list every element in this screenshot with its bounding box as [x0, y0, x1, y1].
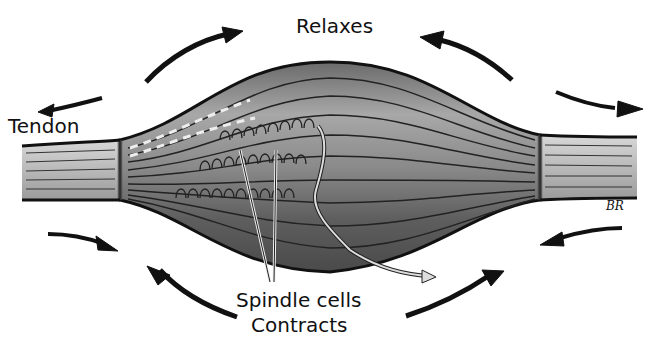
arrow-lower-left-inward-icon [48, 234, 118, 251]
tendon-right [540, 135, 637, 200]
muscle-belly [120, 62, 540, 272]
arrow-lower-right-inward-icon [540, 228, 622, 246]
label-relaxes: Relaxes [296, 14, 373, 38]
arrow-lower-left-upward-icon [147, 266, 237, 317]
label-spindle-cells: Spindle cells [236, 288, 361, 312]
arrow-upper-right-outward-icon [556, 92, 643, 117]
tendon-left [22, 140, 120, 200]
artist-signature: BR [606, 199, 624, 213]
arrow-upper-left-inward-icon [146, 27, 243, 82]
label-contracts: Contracts [251, 313, 347, 337]
label-tendon: Tendon [8, 114, 79, 138]
muscle-spindle-diagram: Relaxes Tendon Spindle cells Contracts B… [0, 0, 660, 353]
arrow-upper-right-inward-icon [420, 31, 512, 80]
